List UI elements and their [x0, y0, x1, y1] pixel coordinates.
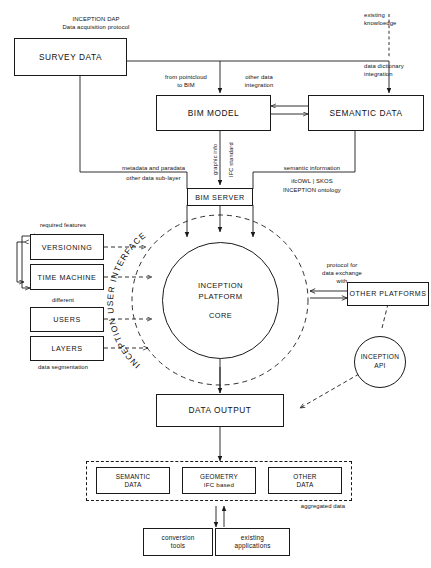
annotation-ifc-standard: IFC standard	[228, 142, 234, 177]
annotation-metadata-and-paradata: metadata and paradata	[92, 165, 215, 173]
node-layers[interactable]: LAYERS	[30, 336, 104, 361]
node-bim-model[interactable]: BIM MODEL	[156, 95, 271, 131]
node-users-label: USERS	[53, 315, 81, 324]
annotation-required-features: required features	[22, 222, 104, 230]
node-conversion-tools[interactable]: conversion tools	[143, 528, 213, 556]
annotation-existing-knowledge: existing knowloedge	[364, 12, 430, 28]
node-semantic-data-label: SEMANTIC DATA	[329, 108, 402, 118]
node-output-geometry[interactable]: GEOMETRY IFC based	[182, 467, 256, 494]
node-data-output-label: DATA OUTPUT	[189, 405, 252, 415]
node-inception-api[interactable]: INCEPTION API	[354, 336, 406, 388]
node-time-machine-label: TIME MACHINE	[38, 273, 97, 282]
node-bim-server[interactable]: BIM SERVER	[187, 188, 253, 206]
node-output-other-data-label: OTHER DATA	[293, 473, 316, 489]
annotation-from-pointcloud-to-bim: from pointcloud to BIM	[155, 74, 217, 90]
node-survey-data-label: SURVEY DATA	[39, 52, 102, 62]
node-users[interactable]: USERS	[30, 307, 104, 332]
node-other-platforms[interactable]: OTHER PLATFORMS	[347, 282, 429, 306]
annotation-inception-dap: INCEPTION DAP Data acquisition protocol	[36, 16, 156, 32]
annotation-other-data-integration: other data integration	[228, 74, 290, 90]
node-output-other-data[interactable]: OTHER DATA	[268, 467, 342, 494]
annotation-aggregated-data: aggregated data	[288, 503, 358, 511]
node-time-machine[interactable]: TIME MACHINE	[30, 264, 104, 290]
core-title: INCEPTION PLATFORM	[198, 281, 243, 302]
node-output-semantic-data-label: SEMANTIC DATA	[116, 473, 151, 489]
node-output-geometry-label: GEOMETRY	[200, 473, 238, 481]
annotation-data-dictionary-integration: data dictionary integration	[364, 63, 430, 79]
node-layers-label: LAYERS	[51, 344, 82, 353]
node-other-platforms-label: OTHER PLATFORMS	[350, 290, 427, 299]
node-inception-api-label: INCEPTION API	[361, 353, 400, 370]
diagram-canvas: INCEPTION USER INTERFACE INCEPTION DAP D…	[0, 0, 431, 568]
node-existing-applications[interactable]: existing applications	[215, 528, 290, 556]
node-conversion-tools-label: conversion tools	[162, 534, 195, 550]
annotation-semantic-information: semantic information	[256, 165, 368, 173]
node-existing-applications-label: existing applications	[234, 534, 270, 550]
annotation-data-segmentation: data segmentation	[22, 364, 104, 372]
node-versioning-label: VERSIONING	[42, 243, 93, 252]
node-semantic-data[interactable]: SEMANTIC DATA	[308, 95, 424, 131]
annotation-ifcowl-skos: ifcOWL | SKOS	[256, 178, 368, 186]
node-output-geometry-sublabel: IFC based	[204, 481, 234, 488]
node-survey-data[interactable]: SURVEY DATA	[14, 38, 127, 76]
node-bim-model-label: BIM MODEL	[188, 108, 240, 118]
core-subtitle: CORE	[209, 311, 232, 320]
node-output-semantic-data[interactable]: SEMANTIC DATA	[96, 467, 170, 494]
annotation-other-data-sublayer: other data sub-layer	[92, 175, 215, 183]
annotation-inception-ontology: INCEPTION ontology	[256, 187, 368, 195]
node-data-output[interactable]: DATA OUTPUT	[156, 394, 284, 427]
node-bim-server-label: BIM SERVER	[195, 193, 245, 202]
node-versioning[interactable]: VERSIONING	[30, 234, 104, 260]
annotation-different: different	[22, 297, 104, 305]
node-inception-platform-core[interactable]: INCEPTION PLATFORM CORE	[162, 242, 279, 359]
